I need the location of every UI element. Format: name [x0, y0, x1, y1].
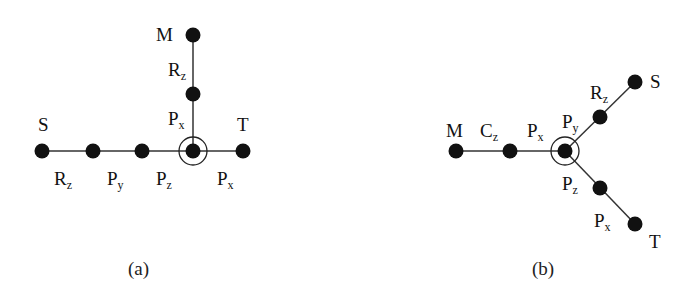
- label-s: S: [38, 114, 49, 135]
- node-joint-2: [135, 144, 150, 159]
- edge-label-px-right: Px: [217, 168, 234, 192]
- label-m: M: [446, 120, 463, 141]
- edge-label-rz: Rz: [590, 82, 608, 106]
- node-joint-3: [186, 87, 201, 102]
- node-joint-1: [503, 144, 518, 159]
- node-joint-3: [593, 181, 608, 196]
- node-root: [558, 144, 573, 159]
- edge-label-pz: Pz: [156, 168, 172, 192]
- node-joint-2: [593, 110, 608, 125]
- edge-label-py: Py: [562, 111, 579, 135]
- edge-label-pz: Pz: [562, 173, 578, 197]
- edge-label-px-vertical: Px: [168, 108, 185, 132]
- edge-label-px-lower: Px: [594, 210, 611, 234]
- label-t: T: [649, 231, 661, 252]
- edge-label-rz: Rz: [54, 168, 72, 192]
- edge-label-rz-vertical: Rz: [168, 59, 186, 83]
- edge-label-px-left: Px: [527, 120, 544, 144]
- panel-b: M S T Cz Px Py Rz Pz Px (b): [446, 71, 661, 280]
- node-m: [186, 28, 201, 43]
- node-t: [628, 217, 643, 232]
- edge-label-cz: Cz: [480, 120, 498, 144]
- label-s: S: [650, 71, 661, 92]
- node-s: [628, 75, 643, 90]
- node-t: [236, 144, 251, 159]
- node-root: [186, 144, 201, 159]
- label-t: T: [237, 114, 249, 135]
- edge-label-py: Py: [107, 168, 124, 192]
- node-s: [35, 144, 50, 159]
- node-joint-1: [86, 144, 101, 159]
- caption-a: (a): [128, 258, 149, 280]
- panel-a: S M T Rz Py Pz Px Rz Px (a): [35, 24, 251, 280]
- label-m: M: [156, 24, 173, 45]
- node-m: [449, 144, 464, 159]
- caption-b: (b): [532, 258, 554, 280]
- figure-canvas: S M T Rz Py Pz Px Rz Px (a) M S T Cz Px …: [0, 0, 691, 305]
